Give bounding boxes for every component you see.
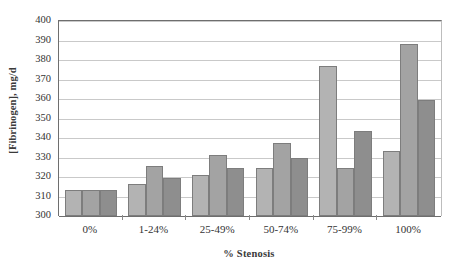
x-separator-tick bbox=[185, 215, 186, 220]
bar-group bbox=[256, 21, 309, 216]
bar[interactable] bbox=[128, 184, 146, 216]
y-axis-title-label: [Fibrinogen], mg/d bbox=[7, 67, 18, 153]
y-tick-label-310: 310 bbox=[35, 190, 51, 201]
bars-layer bbox=[59, 21, 441, 216]
bar-group bbox=[383, 21, 436, 216]
bar[interactable] bbox=[291, 158, 309, 216]
bar[interactable] bbox=[273, 143, 291, 216]
y-axis-title: [Fibrinogen], mg/d bbox=[0, 0, 24, 220]
bar[interactable] bbox=[163, 178, 181, 216]
bar[interactable] bbox=[383, 151, 401, 216]
bar-group bbox=[192, 21, 245, 216]
x-axis-separator-ticks bbox=[58, 215, 440, 220]
x-separator-tick bbox=[313, 215, 314, 220]
bar[interactable] bbox=[192, 175, 210, 216]
y-tick-label-370: 370 bbox=[35, 73, 51, 84]
bar[interactable] bbox=[227, 168, 245, 216]
x-tick-label: 0% bbox=[82, 222, 97, 236]
y-tick-label-320: 320 bbox=[35, 171, 51, 182]
y-tick-label-380: 380 bbox=[35, 54, 51, 65]
bar-group bbox=[65, 21, 118, 216]
y-tick-label-300: 300 bbox=[35, 210, 51, 221]
x-tick-label: 50-74% bbox=[263, 222, 298, 236]
x-separator-tick bbox=[122, 215, 123, 220]
y-tick-label-360: 360 bbox=[35, 93, 51, 104]
x-separator-tick bbox=[249, 215, 250, 220]
y-tick-label-330: 330 bbox=[35, 151, 51, 162]
bar[interactable] bbox=[82, 190, 100, 216]
bar[interactable] bbox=[337, 168, 355, 216]
y-tick-label-350: 350 bbox=[35, 112, 51, 123]
bar[interactable] bbox=[100, 190, 118, 216]
bar[interactable] bbox=[418, 100, 436, 216]
y-tick-label-390: 390 bbox=[35, 34, 51, 45]
bar[interactable] bbox=[146, 166, 164, 216]
x-axis-tick-labels: 0%1-24%25-49%50-74%75-99%100% bbox=[58, 222, 440, 238]
bar-group bbox=[128, 21, 181, 216]
x-separator-tick bbox=[376, 215, 377, 220]
x-tick-label: 1-24% bbox=[139, 222, 168, 236]
fibrinogen-stenosis-bar-chart: [Fibrinogen], mg/d 400390380370360350340… bbox=[0, 0, 449, 272]
bar[interactable] bbox=[354, 131, 372, 216]
bar[interactable] bbox=[209, 155, 227, 216]
x-axis-title: % Stenosis bbox=[58, 248, 440, 259]
y-tick-label-340: 340 bbox=[35, 132, 51, 143]
bar-group bbox=[319, 21, 372, 216]
x-tick-label: 75-99% bbox=[327, 222, 362, 236]
y-axis-tick-labels: 400390380370360350340330320310300 bbox=[24, 20, 54, 215]
bar[interactable] bbox=[65, 190, 83, 216]
bar[interactable] bbox=[256, 168, 274, 216]
plot-area bbox=[58, 20, 442, 216]
bar[interactable] bbox=[319, 66, 337, 216]
x-tick-label: 25-49% bbox=[200, 222, 235, 236]
bar[interactable] bbox=[400, 44, 418, 216]
y-tick-label-400: 400 bbox=[35, 15, 51, 26]
x-tick-label: 100% bbox=[395, 222, 421, 236]
